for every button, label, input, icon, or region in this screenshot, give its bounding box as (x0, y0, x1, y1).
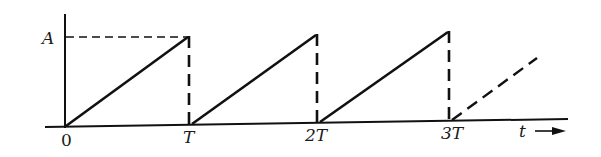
tick-label-2T: 2T (304, 125, 329, 145)
ramp-2 (192, 35, 316, 124)
tick-label-3T: 3T (441, 123, 465, 143)
tick-label-T: T (183, 127, 196, 147)
sawtooth-diagram: A 0 T 2T 3T t (0, 0, 601, 157)
time-axis-label: t (519, 121, 526, 141)
ramp-1 (66, 37, 188, 126)
ramp-3 (320, 32, 448, 122)
ramp-continuation-dashed (452, 58, 537, 120)
time-arrow-icon (535, 127, 566, 135)
amplitude-label: A (40, 28, 54, 48)
origin-label: 0 (61, 130, 72, 150)
